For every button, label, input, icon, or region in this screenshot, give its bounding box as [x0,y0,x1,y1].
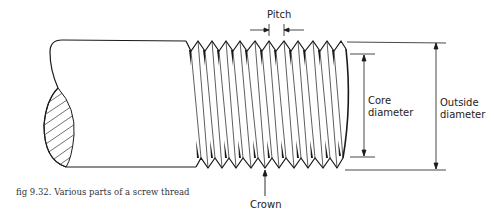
hatching [40,88,78,172]
core-diameter-label-line1: Core [368,95,413,107]
outside-diameter-label-line1: Outside [440,97,485,109]
core-diameter-label: Core diameter [368,95,413,119]
pitch-label: Pitch [267,9,291,21]
core-diameter-label-line2: diameter [368,107,413,119]
shaft-outline [44,40,196,167]
thread-flanks [191,41,343,168]
crown-arrow [263,170,267,196]
pitch-dimension [250,24,304,36]
thread-end [343,49,348,158]
outside-diameter-label-line2: diameter [440,109,485,121]
thread-bottom-profile [196,158,343,168]
outside-diameter-label: Outside diameter [440,97,485,121]
figure-caption: fig 9.32. Various parts of a screw threa… [16,187,189,197]
crown-label: Crown [250,199,282,211]
thread-top-profile [186,41,346,51]
